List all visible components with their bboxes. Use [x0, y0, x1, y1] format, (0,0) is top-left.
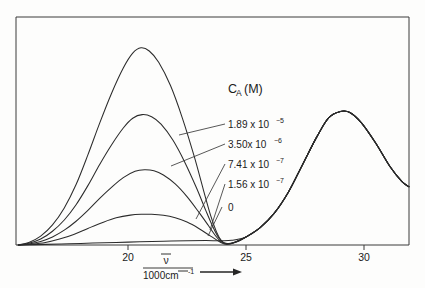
legend-entry-exponent: −6 — [274, 137, 282, 144]
legend-title: C A (M) — [228, 82, 263, 98]
x-tick-label-25: 25 — [240, 251, 252, 263]
legend-entry-1[interactable]: 3.50x 10 −6 — [228, 137, 282, 150]
legend-entry-mantissa: 0 — [228, 202, 234, 213]
legend-entry-mantissa: 1.56 x 10 — [228, 179, 270, 190]
legend-title-subscript: A — [236, 88, 242, 98]
plot-frame — [16, 17, 409, 245]
x-axis-denominator: 1000cm — [143, 270, 179, 281]
x-tick-label-20: 20 — [122, 251, 134, 263]
leader-line-4 — [210, 184, 225, 230]
legend-entry-exponent: −7 — [276, 177, 284, 184]
legend-entry-4[interactable]: 0 — [228, 202, 234, 213]
legend-entry-exponent: −5 — [276, 117, 284, 124]
spectra-plot: 20 25 30 C A (M) 1.89 x 10 −5 3.50x 10 −… — [0, 0, 425, 288]
legend-entry-3[interactable]: 1.56 x 10 −7 — [228, 177, 284, 190]
spectrum-curve-0 — [18, 48, 409, 245]
x-axis-ticks — [128, 245, 364, 250]
legend-entry-mantissa: 3.50x 10 — [228, 139, 267, 150]
x-tick-labels: 20 25 30 — [122, 251, 370, 263]
legend-entries: 1.89 x 10 −5 3.50x 10 −6 7.41 x 10 −7 1.… — [228, 117, 284, 213]
x-tick-label-30: 30 — [358, 251, 370, 263]
leader-line-2 — [171, 144, 225, 166]
legend-title-unit: (M) — [244, 82, 263, 96]
legend-entry-0[interactable]: 1.89 x 10 −5 — [228, 117, 284, 130]
x-axis-title: ν 1000cm -1 — [143, 254, 242, 281]
legend-entry-exponent: −7 — [276, 157, 284, 164]
legend-entry-2[interactable]: 7.41 x 10 −7 — [228, 157, 284, 170]
legend-entry-mantissa: 1.89 x 10 — [228, 119, 270, 130]
spectrum-curves-group — [18, 48, 409, 245]
x-axis-numerator: ν — [163, 254, 168, 266]
x-axis-arrow-head-icon — [233, 268, 242, 275]
figure-container: 20 25 30 C A (M) 1.89 x 10 −5 3.50x 10 −… — [0, 0, 425, 288]
x-axis-denominator-exponent: -1 — [188, 268, 194, 275]
legend-entry-mantissa: 7.41 x 10 — [228, 159, 270, 170]
